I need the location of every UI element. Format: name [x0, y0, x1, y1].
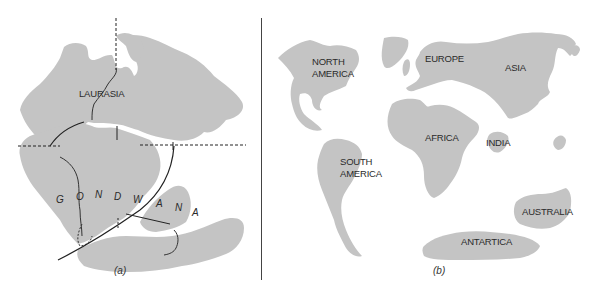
africa-landmass [388, 99, 480, 198]
caption-a: (a) [114, 265, 126, 276]
gondwana-letter-n2: N [175, 202, 182, 213]
south-america-label-2: AMERICA [340, 168, 382, 179]
greenland-landmass [382, 37, 409, 68]
gondwana-letter-a1: A [156, 198, 162, 209]
europe-label: EUROPE [425, 53, 464, 64]
continental-drift-figure: LAURASIA G O N D W A N A (a) NORTH AMERI… [0, 0, 603, 291]
australia-label: AUSTRALIA [522, 206, 573, 217]
southeast-asia-landmass [553, 136, 566, 151]
japan-landmass [572, 45, 580, 56]
british-isles-landmass [403, 59, 411, 76]
pangaea-map [0, 0, 262, 291]
north-america-label-2: AMERICA [312, 68, 354, 79]
gondwana-letter-d: D [114, 191, 121, 202]
gondwana-letter-n: N [95, 189, 102, 200]
laurasia-label: LAURASIA [79, 88, 124, 99]
north-america-landmass [278, 40, 359, 131]
gondwana-india-landmass [140, 186, 191, 232]
north-america-label-1: NORTH [312, 56, 345, 67]
eurasia-landmass [406, 33, 576, 119]
africa-label: AFRICA [425, 132, 459, 143]
panel-divider [261, 18, 262, 280]
gondwana-letter-a2: A [192, 207, 198, 218]
antarctica-label: ANTARTICA [461, 236, 512, 247]
gondwana-letter-w: W [133, 194, 142, 205]
asia-label: ASIA [505, 62, 526, 73]
gondwana-letter-o: O [76, 191, 84, 202]
south-america-label-1: SOUTH [340, 156, 372, 167]
india-label: INDIA [486, 137, 510, 148]
gondwana-west-landmass [19, 123, 160, 244]
caption-b: (b) [433, 265, 445, 276]
gondwana-letter-g: G [56, 194, 64, 205]
